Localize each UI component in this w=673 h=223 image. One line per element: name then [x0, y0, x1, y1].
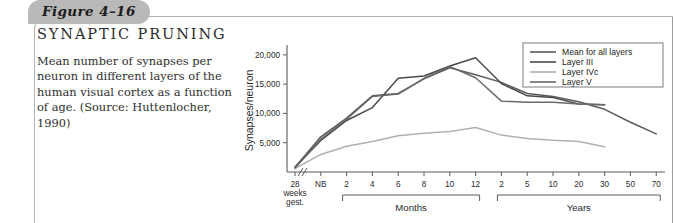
axis-group-bracket [497, 195, 660, 201]
x-tick-label: 50 [626, 180, 636, 189]
y-axis-title: Synapses/neuron [243, 69, 255, 151]
x-tick-label: gest. [286, 198, 304, 207]
x-tick-label: 10 [445, 180, 455, 189]
page-title: SYNAPTIC PRUNING [37, 26, 233, 42]
figure-number-label: Figure 4–16 [42, 3, 136, 19]
synaptic-pruning-chart: 5,00010,00015,00020,000Synapses/neuron28… [225, 31, 673, 223]
y-tick-label: 5,000 [260, 139, 281, 148]
x-tick-label: weeks [282, 189, 306, 198]
x-tick-label: 8 [422, 180, 427, 189]
y-tick-label: 20,000 [255, 51, 280, 60]
legend-label: Layer IVc [562, 67, 599, 77]
figure-card: SYNAPTIC PRUNING Mean number of synapses… [34, 16, 673, 223]
y-tick-label: 15,000 [255, 80, 280, 89]
x-tick-label: 2 [344, 180, 349, 189]
x-tick-label: 5 [525, 180, 530, 189]
series-line-layer-ivc [295, 127, 605, 168]
axis-group-label: Months [395, 202, 427, 213]
legend-label: Layer III [562, 57, 593, 67]
x-tick-label: 2 [499, 180, 504, 189]
legend-label: Layer V [562, 77, 592, 87]
axis-group-label: Years [567, 202, 591, 213]
line-chart-svg: 5,00010,00015,00020,000Synapses/neuron28… [225, 31, 673, 223]
x-tick-label: 20 [574, 180, 584, 189]
legend-label: Mean for all layers [562, 47, 632, 57]
axis-group-bracket [343, 195, 480, 201]
x-tick-label: 28 [290, 180, 300, 189]
figure-number-tab: Figure 4–16 [28, 0, 150, 24]
x-tick-label: 12 [471, 180, 481, 189]
x-tick-label: 6 [396, 180, 401, 189]
x-tick-label: NB [315, 180, 327, 189]
figure-text-column: SYNAPTIC PRUNING Mean number of synapses… [37, 26, 233, 131]
x-tick-label: 70 [652, 180, 662, 189]
figure-panel: Figure 4–16 SYNAPTIC PRUNING Mean number… [0, 0, 673, 223]
x-tick-label: 10 [548, 180, 558, 189]
x-tick-label: 4 [370, 180, 375, 189]
figure-caption: Mean number of synapses per neuron in di… [37, 54, 233, 131]
x-tick-label: 30 [600, 180, 610, 189]
y-tick-label: 10,000 [255, 109, 280, 118]
